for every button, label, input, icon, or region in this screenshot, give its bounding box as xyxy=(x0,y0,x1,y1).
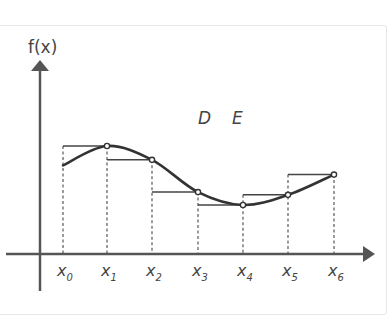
axes xyxy=(6,60,375,291)
x-tick-subscript-5: 5 xyxy=(291,272,297,283)
y-axis-label: f(x) xyxy=(28,37,57,57)
x-tick-label-4: x4 xyxy=(236,261,253,283)
sample-point-2 xyxy=(149,157,154,162)
x-tick-labels: x0x1x2x3x4x5x6 xyxy=(56,261,344,283)
x-tick-label-5: x5 xyxy=(281,261,298,283)
rectangle-tops xyxy=(63,146,334,205)
x-tick-subscript-1: 1 xyxy=(110,272,116,283)
point-label-e: E xyxy=(232,108,243,128)
x-tick-label-0: x0 xyxy=(56,261,73,283)
point-label-d: D xyxy=(198,108,211,128)
x-tick-label-6: x6 xyxy=(327,261,344,283)
x-tick-subscript-4: 4 xyxy=(246,272,252,283)
x-tick-label-3: x3 xyxy=(191,261,208,283)
sample-point-5 xyxy=(285,192,290,197)
x-tick-subscript-3: 3 xyxy=(201,272,207,283)
x-tick-subscript-0: 0 xyxy=(66,272,72,283)
function-curve xyxy=(63,146,334,205)
x-tick-subscript-6: 6 xyxy=(337,272,343,283)
sample-point-4 xyxy=(240,202,245,207)
dashed-guides xyxy=(63,146,334,254)
x-axis-arrow-icon xyxy=(363,246,375,262)
sample-point-1 xyxy=(104,143,109,148)
x-tick-subscript-2: 2 xyxy=(155,272,161,283)
x-tick-label-2: x2 xyxy=(145,261,162,283)
sample-point-6 xyxy=(331,172,336,177)
y-axis-arrow-icon xyxy=(31,60,49,71)
x-tick-label-1: x1 xyxy=(100,261,117,283)
sample-point-3 xyxy=(195,189,200,194)
